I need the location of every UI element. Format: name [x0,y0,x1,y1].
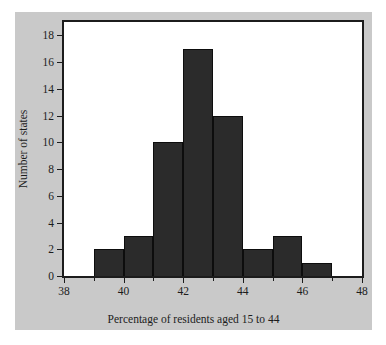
x-tick-major [243,276,244,283]
y-tick-label: 16 [28,56,54,68]
y-tick-label: 4 [28,217,54,229]
plot-frame [62,20,364,278]
y-tick [57,116,63,117]
y-tick [57,62,63,63]
x-tick-major [183,276,184,283]
x-tick-minor [153,276,154,281]
x-tick-label: 38 [58,285,70,297]
y-tick-label: 0 [28,270,54,282]
y-tick-label: 14 [28,83,54,95]
histogram-bar [153,142,183,276]
x-tick-minor [332,276,333,281]
x-tick-label: 42 [177,285,189,297]
y-tick [57,142,63,143]
x-tick-label: 44 [237,285,249,297]
histogram-bar [302,263,332,276]
histogram-bar [124,236,154,276]
x-tick-major [124,276,125,283]
y-tick-label: 12 [28,110,54,122]
x-tick-minor [213,276,214,281]
x-tick-label: 46 [297,285,309,297]
histogram-bar [213,116,243,276]
y-tick [57,223,63,224]
x-tick-minor [273,276,274,281]
y-tick [57,35,63,36]
histogram-bar [243,249,273,276]
y-tick [57,169,63,170]
y-tick-label: 8 [28,163,54,175]
y-tick-label: 10 [28,136,54,148]
plot-area [64,22,362,276]
figure-panel: 384042444648 024681012141618 Percentage … [15,12,372,330]
x-axis-label: Percentage of residents aged 15 to 44 [15,313,372,325]
y-axis-label: Number of states [17,110,29,189]
histogram-bar [94,249,124,276]
histogram-bar [273,236,303,276]
x-tick-minor [94,276,95,281]
y-tick-label: 18 [28,29,54,41]
x-tick-major [302,276,303,283]
y-tick-label: 6 [28,190,54,202]
y-tick-label: 2 [28,243,54,255]
y-tick [57,276,63,277]
x-tick-major [64,276,65,283]
histogram-bar [183,49,213,276]
y-tick [57,196,63,197]
x-tick-label: 48 [356,285,368,297]
x-tick-major [362,276,363,283]
y-tick [57,89,63,90]
y-tick [57,249,63,250]
x-tick-label: 40 [118,285,130,297]
